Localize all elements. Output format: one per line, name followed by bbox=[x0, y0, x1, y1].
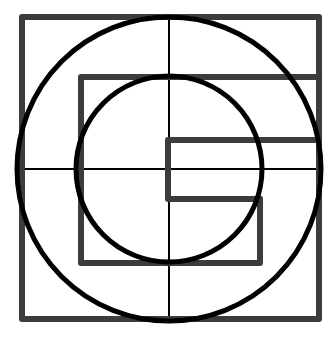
geometric-figure bbox=[0, 0, 336, 339]
